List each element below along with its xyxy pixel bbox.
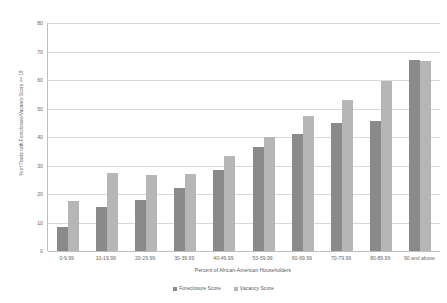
y-axis-tick: 40 [20, 134, 43, 141]
gridline [48, 251, 440, 252]
bar [264, 137, 275, 251]
legend-label: Foreclosure Score [179, 285, 221, 292]
bar-group [362, 23, 401, 251]
x-axis-tick: 30-39.99 [165, 253, 204, 265]
bar [185, 174, 196, 251]
bar [381, 81, 392, 251]
bar [342, 100, 353, 251]
bar [68, 201, 79, 251]
y-axis-tick: 80 [20, 20, 43, 27]
bar [135, 200, 146, 251]
bar-group [48, 23, 87, 251]
bar-group [244, 23, 283, 251]
x-axis-tick: 70-79.99 [321, 253, 360, 265]
y-axis-tick: 70 [20, 48, 43, 55]
legend-entry[interactable]: Vacancy Score [234, 285, 274, 292]
bar [292, 134, 303, 251]
bar [331, 123, 342, 251]
bars-layer [48, 23, 440, 251]
bar [213, 170, 224, 251]
x-axis-tick: 60-69.99 [282, 253, 321, 265]
x-axis-tick: 10-19.99 [86, 253, 125, 265]
bar [370, 121, 381, 251]
x-axis-tick: 20-29.99 [125, 253, 164, 265]
x-axis-tick: 0-9.99 [47, 253, 86, 265]
y-axis-tick: 10 [20, 219, 43, 226]
bar [409, 60, 420, 251]
bar [303, 116, 314, 251]
bar [57, 227, 68, 251]
x-axis-tick: 90 and above [400, 253, 439, 265]
x-axis-tick: 80-89.99 [361, 253, 400, 265]
bar-chart: % of Tracts with Foreclosure/Vacancy Sco… [0, 0, 447, 303]
chart-legend: Foreclosure ScoreVacancy Score [0, 285, 447, 292]
bar [174, 188, 185, 251]
bar-group [283, 23, 322, 251]
bar [253, 147, 264, 251]
legend-label: Vacancy Score [240, 285, 274, 292]
bar-group [205, 23, 244, 251]
bar [420, 61, 431, 251]
y-axis-tick-labels: 80706050403020100 [20, 17, 43, 257]
y-axis-tick: 60 [20, 77, 43, 84]
legend-swatch-icon [234, 287, 238, 291]
bar-group [126, 23, 165, 251]
x-axis-tick-labels: 0-9.9910-19.9920-29.9930-39.9940-49.9950… [47, 253, 439, 265]
bar-group [166, 23, 205, 251]
bar [96, 207, 107, 251]
x-axis-title: Percent of African-American Householders [47, 266, 439, 275]
bar-group [87, 23, 126, 251]
bar [146, 175, 157, 251]
bar [107, 173, 118, 251]
y-axis-tick: 20 [20, 191, 43, 198]
legend-entry[interactable]: Foreclosure Score [173, 285, 221, 292]
x-axis-tick: 50-59.99 [243, 253, 282, 265]
y-axis-tick: 30 [20, 162, 43, 169]
y-axis-tick: 0 [20, 248, 43, 255]
x-axis-tick: 40-49.99 [204, 253, 243, 265]
bar [224, 156, 235, 251]
y-axis-tick: 50 [20, 105, 43, 112]
bar-group [322, 23, 361, 251]
bar-group [401, 23, 440, 251]
legend-swatch-icon [173, 287, 177, 291]
plot-area [47, 23, 440, 251]
